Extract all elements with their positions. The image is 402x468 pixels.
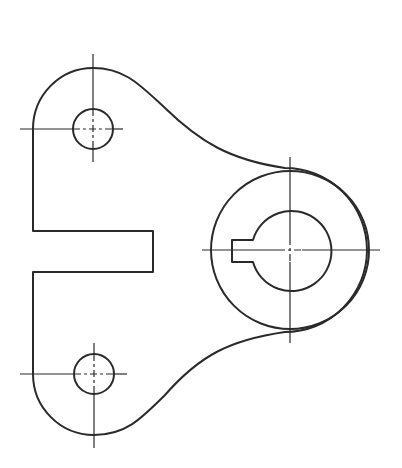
part-outline <box>33 68 367 435</box>
hub-centerlines <box>202 157 380 343</box>
technical-drawing <box>0 0 402 468</box>
keyed-bore <box>232 211 331 291</box>
